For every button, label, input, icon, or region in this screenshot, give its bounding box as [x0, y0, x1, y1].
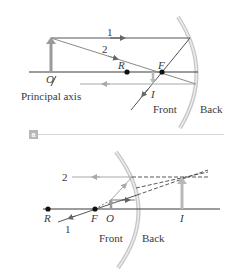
virtual-ray-extension-2: [137, 170, 208, 195]
front-label-a: Front: [153, 104, 177, 115]
ray-1-label-b: 1: [65, 224, 71, 235]
back-label-b: Back: [142, 233, 165, 244]
back-label-a: Back: [200, 104, 223, 115]
center-label-b: R: [44, 213, 51, 224]
object-label-a: O: [46, 74, 54, 85]
image-label-a: I: [151, 89, 155, 100]
focal-point-dot-b: [92, 206, 97, 211]
center-label-a: R: [118, 60, 125, 71]
principal-axis-label: Principal axis: [21, 91, 81, 102]
ray-2-label-b: 2: [62, 172, 68, 183]
panel-b: [43, 152, 220, 268]
ray-1-label-a: 1: [107, 27, 113, 38]
object-label-b: O: [106, 213, 114, 224]
concave-mirror-figure: 1 2 O R F I Principal axis Front Back a …: [0, 0, 237, 269]
virtual-ray-extension-3: [136, 172, 208, 188]
center-of-curvature-dot-b: [45, 206, 50, 211]
focal-label-b: F: [91, 213, 98, 224]
image-label-b: I: [180, 213, 184, 224]
ray-2-label-a: 2: [102, 44, 108, 55]
panel-a-tag: a: [29, 130, 38, 139]
focal-label-a: F: [158, 60, 165, 71]
center-of-curvature-dot-a: [124, 69, 129, 74]
front-label-b: Front: [99, 233, 123, 244]
panel-divider: [38, 134, 224, 135]
